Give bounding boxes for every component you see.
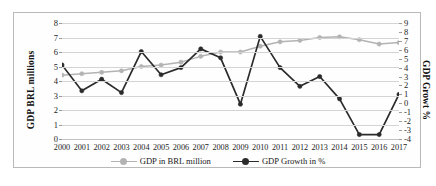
y-axis-right-tick-mark (399, 85, 402, 86)
x-axis-tick: 2003 (113, 143, 129, 152)
x-axis-tick: 2002 (93, 143, 109, 152)
y-axis-right-tick-mark (399, 68, 402, 69)
series-data-point (337, 97, 341, 101)
x-axis-tick: 2013 (312, 143, 328, 152)
y-axis-left-tick: 8 (54, 19, 58, 28)
x-axis-tick: 2017 (391, 143, 407, 152)
series-data-point (80, 89, 84, 93)
series-data-point (377, 42, 381, 46)
x-axis-tick: 2006 (173, 143, 189, 152)
series-data-point (318, 74, 322, 78)
legend-label: GDP in BRL million (140, 156, 211, 166)
y-axis-right-tick-mark (399, 77, 402, 78)
y-axis-left-tick: 6 (54, 48, 58, 57)
chart-legend: GDP in BRL millionGDP Growth in % (14, 156, 422, 166)
x-axis-tick: 2012 (292, 143, 308, 152)
x-axis-tick: 2010 (252, 143, 268, 152)
y-axis-left-tick: 2 (54, 106, 58, 115)
y-axis-right-tick-mark (399, 103, 402, 104)
y-axis-right-tick-mark (399, 112, 402, 113)
chart-figure: GDP BRL millions 012345678 9876543210-1-… (0, 0, 436, 186)
x-axis-tick: 2007 (193, 143, 209, 152)
legend-item[interactable]: GDP in BRL million (111, 156, 211, 166)
series-data-point (298, 84, 302, 88)
y-axis-left-tick: 7 (54, 33, 58, 42)
y-axis-left-tick: 1 (54, 120, 58, 129)
y-axis-left-tick: 4 (54, 77, 58, 86)
y-axis-right-tick-mark (399, 41, 402, 42)
x-axis: 2000200120022003200420052006200720082009… (62, 143, 399, 157)
series-data-point (119, 91, 123, 95)
series-data-point (100, 70, 104, 74)
y-axis-right-tick-mark (399, 121, 402, 122)
x-axis-tick: 2011 (272, 143, 288, 152)
x-axis-tick: 2009 (232, 143, 248, 152)
legend-label: GDP Growth in % (262, 156, 325, 166)
series-data-point (199, 54, 203, 58)
series-data-point (199, 47, 203, 51)
x-axis-tick: 2000 (54, 143, 70, 152)
y-axis-right-tick-mark (399, 32, 402, 33)
gridline (62, 23, 399, 24)
legend-marker-icon (111, 157, 137, 166)
legend-item[interactable]: GDP Growth in % (233, 156, 325, 166)
gridline (62, 139, 399, 140)
gridline (62, 125, 399, 126)
y-axis-left: 012345678 (30, 23, 62, 139)
plot-area (62, 23, 399, 139)
x-axis-tick: 2001 (74, 143, 90, 152)
x-axis-tick: 2015 (351, 143, 367, 152)
y-axis-right-tick-mark (399, 130, 402, 131)
y-axis-right-tick-mark (399, 139, 402, 140)
series-data-point (238, 102, 242, 106)
gridline (62, 96, 399, 97)
y-axis-right-tick: -4 (404, 135, 411, 144)
series-data-point (298, 38, 302, 42)
gridline (62, 67, 399, 68)
gridline (62, 81, 399, 82)
series-data-point (357, 132, 361, 136)
legend-marker-icon (233, 157, 259, 166)
series-data-point (258, 44, 262, 48)
series-data-point (80, 72, 84, 76)
y-axis-left-tick: 0 (54, 135, 58, 144)
y-axis-right: 9876543210-1-2-3-4 (399, 23, 419, 139)
series-data-point (62, 73, 64, 77)
series-data-point (119, 69, 123, 73)
x-axis-tick: 2016 (371, 143, 387, 152)
series-data-point (159, 73, 163, 77)
y-axis-right-tick-mark (399, 59, 402, 60)
chart-plot-frame: GDP BRL millions 012345678 9876543210-1-… (13, 12, 421, 168)
x-axis-tick: 2014 (331, 143, 347, 152)
gridline (62, 38, 399, 39)
series-line (62, 37, 399, 75)
y-axis-right-tick-mark (399, 94, 402, 95)
x-axis-tick: 2004 (133, 143, 149, 152)
gridline (62, 110, 399, 111)
gridline (62, 52, 399, 53)
series-data-point (278, 40, 282, 44)
series-data-point (179, 60, 183, 64)
series-data-point (218, 56, 222, 60)
y-axis-right-title: GDP Growt % (421, 30, 431, 150)
series-data-point (377, 132, 381, 136)
x-axis-tick: 2008 (212, 143, 228, 152)
y-axis-right-tick-mark (399, 23, 402, 24)
x-axis-tick: 2005 (153, 143, 169, 152)
y-axis-left-tick: 5 (54, 62, 58, 71)
y-axis-left-tick: 3 (54, 91, 58, 100)
y-axis-right-tick-mark (399, 50, 402, 51)
